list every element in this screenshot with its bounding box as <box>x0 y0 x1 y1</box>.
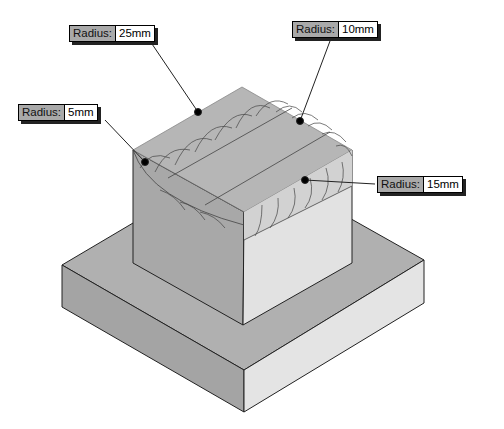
callout-value: 10mm <box>339 22 377 37</box>
callout-value: 15mm <box>424 177 462 192</box>
callout-radius-10mm: Radius: 10mm <box>292 21 378 38</box>
callout-label: Radius: <box>70 26 116 41</box>
fillet-model-illustration <box>0 0 504 429</box>
callout-radius-25mm: Radius: 25mm <box>69 25 155 42</box>
callout-label: Radius: <box>378 177 424 192</box>
callout-label: Radius: <box>293 22 339 37</box>
callout-radius-15mm: Radius: 15mm <box>377 176 463 193</box>
callout-label: Radius: <box>19 105 65 120</box>
callout-value: 25mm <box>116 26 154 41</box>
callout-value: 5mm <box>65 105 97 120</box>
callout-radius-5mm: Radius: 5mm <box>18 104 98 121</box>
